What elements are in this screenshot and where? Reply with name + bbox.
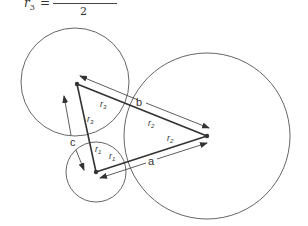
label-r2-top: r2 [148, 118, 155, 129]
label-r1-left: r1 [95, 144, 101, 155]
center-2 [205, 134, 209, 138]
label-r3-top: r3 [100, 99, 107, 110]
label-r3-left: r3 [87, 114, 94, 125]
dimension-a-left-arrow [100, 163, 146, 178]
dimension-c-up-arrow [64, 96, 71, 135]
center-1 [94, 170, 98, 174]
side-r3-r2 [77, 84, 207, 136]
fraction-bar [53, 3, 117, 4]
tangent-circles-diagram: b a c r3 r3 r2 r2 r1 r1 [0, 0, 308, 226]
center-3 [75, 82, 79, 86]
formula-lhs: r3 [24, 0, 35, 12]
circle-3 [21, 28, 129, 136]
dimension-c-down-arrow [76, 150, 84, 170]
label-r2-bottom: r2 [167, 133, 174, 144]
label-c: c [70, 136, 76, 148]
dimension-a-right-arrow [157, 143, 207, 159]
formula: r3 = 2 [0, 0, 120, 20]
formula-denominator: 2 [80, 5, 87, 18]
diagram-stage: r3 = 2 b a c r [0, 0, 308, 226]
label-a: a [148, 155, 155, 167]
label-b: b [136, 96, 142, 108]
label-r1-right: r1 [109, 151, 115, 162]
formula-equals: = [40, 0, 50, 10]
